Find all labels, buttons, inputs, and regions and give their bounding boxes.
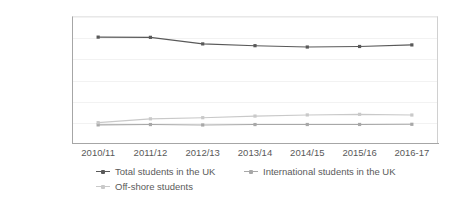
x-axis-tick-label: 2016-17 (382, 147, 442, 158)
legend-marker-icon (96, 167, 110, 176)
plot-area (72, 16, 438, 143)
legend-item-off-shore-students[interactable]: Off-shore students (96, 181, 244, 192)
x-axis-tick-label: 2015/16 (330, 147, 390, 158)
legend-row-2: Off-shore students (96, 181, 436, 196)
x-axis-line (72, 143, 439, 144)
x-axis-tick-label: 2010/11 (68, 147, 128, 158)
x-axis-tick-label: 2012/13 (173, 147, 233, 158)
legend-item-international-students-in-the-uk[interactable]: International students in the UK (244, 166, 396, 177)
x-axis-tick-label: 2011/12 (120, 147, 180, 158)
legend-label: Off-shore students (115, 181, 193, 192)
gridline (73, 81, 437, 82)
chart-legend: Total students in the UK International s… (96, 166, 436, 196)
gridline (73, 59, 437, 60)
x-axis-tick-label: 2014/15 (277, 147, 337, 158)
legend-label: International students in the UK (263, 166, 396, 177)
gridline (73, 123, 437, 124)
legend-row-1: Total students in the UK International s… (96, 166, 436, 181)
gridline (73, 17, 437, 18)
gridline (73, 38, 437, 39)
gridline (73, 102, 437, 103)
line-chart: 0500000100000015000002000000250000030000… (0, 0, 453, 209)
legend-marker-icon (96, 182, 110, 191)
legend-marker-icon (244, 167, 258, 176)
x-axis-tick-label: 2013/14 (225, 147, 285, 158)
legend-label: Total students in the UK (115, 166, 215, 177)
legend-item-total-students-in-the-uk[interactable]: Total students in the UK (96, 166, 244, 177)
